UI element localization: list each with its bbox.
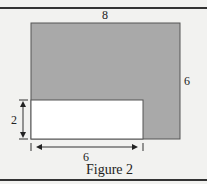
right-height-label: 6 [184,75,190,87]
cutout-height-label: 2 [11,114,17,126]
figure-diagram [0,0,207,184]
bottom-rule [0,179,207,181]
top-width-label: 8 [102,9,108,21]
cutout-rectangle [31,100,143,139]
figure-caption: Figure 2 [86,163,133,177]
